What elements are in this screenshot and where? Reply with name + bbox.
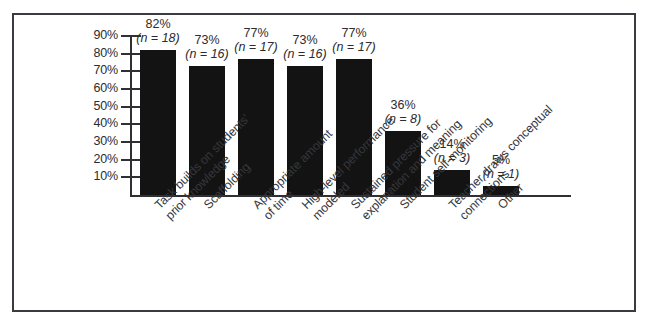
y-axis-tick-label: 60% xyxy=(74,81,118,95)
y-axis-tick-label: 10% xyxy=(74,169,118,183)
y-axis-tick-label: 30% xyxy=(74,134,118,148)
bar-value-label: 77%(n = 17) xyxy=(314,26,394,54)
y-axis-tick xyxy=(121,53,141,55)
y-axis-tick xyxy=(121,159,141,161)
bar-percent-label: 77% xyxy=(314,26,394,40)
y-axis-spine xyxy=(130,36,132,196)
figure-root: 90%80%70%60%50%40%30%20%10% 82%(n = 18)7… xyxy=(0,0,649,325)
bar-percent-label: 82% xyxy=(118,17,198,31)
y-axis-tick-label: 70% xyxy=(74,63,118,77)
y-axis-tick xyxy=(121,176,141,178)
y-axis-tick-label: 90% xyxy=(74,28,118,42)
y-axis-tick xyxy=(121,88,141,90)
bar-n-label: (n = 17) xyxy=(314,40,394,54)
y-axis-tick-label: 20% xyxy=(74,152,118,166)
bar xyxy=(140,50,176,195)
y-axis-tick xyxy=(121,106,141,108)
y-axis-tick-label: 40% xyxy=(74,116,118,130)
bar-percent-label: 36% xyxy=(363,98,443,112)
y-axis-tick-label: 80% xyxy=(74,46,118,60)
y-axis-tick xyxy=(121,141,141,143)
plot-area: 90%80%70%60%50%40%30%20%10% 82%(n = 18)7… xyxy=(0,0,649,325)
y-axis-tick-label: 50% xyxy=(74,99,118,113)
y-axis-tick xyxy=(121,70,141,72)
y-axis-tick xyxy=(121,123,141,125)
